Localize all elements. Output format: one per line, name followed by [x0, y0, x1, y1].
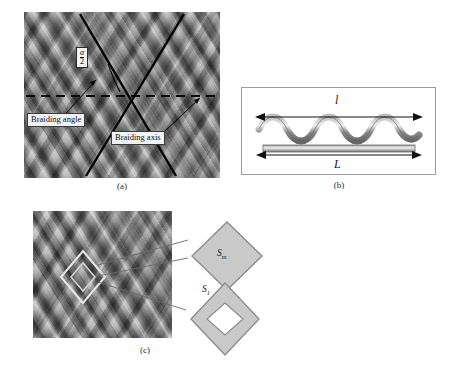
- panel-a-caption: (a): [98, 181, 146, 191]
- panel-c-caption-text: (c): [140, 345, 150, 355]
- panel-a-caption-text: (a): [117, 181, 127, 191]
- hollow-unit-cell-diagram: [180, 278, 270, 360]
- hollow-unit-cell-label-sub: 1: [207, 289, 210, 296]
- braiding-axis-text: Braiding axis: [115, 132, 161, 142]
- panel-b-caption: (b): [315, 180, 363, 190]
- braiding-angle-text: Braiding angle: [31, 114, 81, 124]
- panel-b: l L: [241, 87, 436, 175]
- braided-sleeve-micrograph-c: [33, 211, 172, 338]
- panel-a: α 2 Braiding angle Braiding axis: [24, 12, 220, 178]
- straight-fiber-length-label: L: [334, 157, 341, 172]
- figure-root: α 2 Braiding angle Braiding axis (a): [0, 0, 469, 368]
- half-angle-denominator: 2: [80, 58, 84, 66]
- panel-c: [33, 211, 172, 338]
- solid-unit-cell-diagram: [182, 216, 272, 296]
- wavy-fiber-length-text: l: [335, 93, 338, 107]
- braided-sleeve-micrograph-a: [24, 12, 220, 178]
- panel-b-caption-text: (b): [334, 180, 345, 190]
- solid-unit-cell-label: Sm: [217, 248, 226, 260]
- panel-c-caption: (c): [121, 345, 169, 355]
- straight-fiber-length-text: L: [334, 157, 341, 171]
- hollow-unit-cell-label: S1: [202, 284, 210, 296]
- half-braiding-angle-label: α 2: [76, 47, 88, 68]
- solid-unit-cell-label-sub: m: [222, 253, 227, 260]
- half-angle-numerator: α: [80, 49, 84, 57]
- solid-diamond-shape: [192, 222, 262, 290]
- braiding-axis-callout: Braiding axis: [111, 131, 165, 145]
- hollow-diamond-inner: [207, 303, 243, 335]
- wavy-fiber-length-label: l: [335, 93, 338, 108]
- braiding-angle-callout: Braiding angle: [27, 113, 85, 127]
